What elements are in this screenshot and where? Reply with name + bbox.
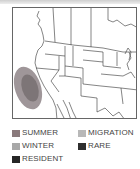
range-map xyxy=(12,7,137,119)
legend-item-rare: RARE xyxy=(78,141,111,151)
legend-label: WINTER xyxy=(22,141,54,151)
legend-label: RARE xyxy=(88,141,111,151)
map-outline xyxy=(13,8,137,119)
legend-item-summer: SUMMER xyxy=(12,128,58,138)
legend-item-winter: WINTER xyxy=(12,141,54,151)
legend-label: RESIDENT xyxy=(22,154,63,164)
legend-item-migration: MIGRATION xyxy=(78,128,134,138)
legend-label: MIGRATION xyxy=(88,128,134,138)
legend-item-resident: RESIDENT xyxy=(12,154,63,164)
migration-swatch-icon xyxy=(78,130,86,137)
summer-swatch-icon xyxy=(12,130,20,137)
resident-swatch-icon xyxy=(12,156,20,163)
top-shadow-bar xyxy=(0,0,140,4)
winter-swatch-icon xyxy=(12,143,20,150)
legend-label: SUMMER xyxy=(22,128,58,138)
rare-swatch-icon xyxy=(78,143,86,150)
